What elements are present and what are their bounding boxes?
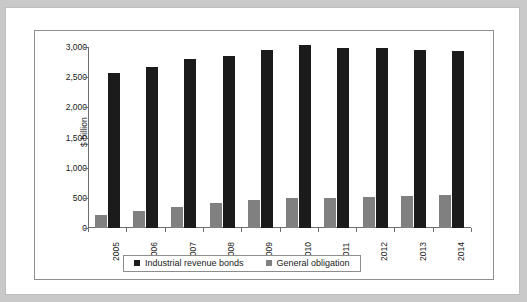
bar-group bbox=[280, 47, 318, 228]
y-axis-tick-mark bbox=[84, 77, 89, 78]
legend-item-label: General obligation bbox=[277, 258, 350, 268]
y-axis-tick-mark bbox=[84, 47, 89, 48]
x-axis-tick-mark bbox=[241, 228, 242, 232]
chart-container: $ billion 05001,0001,5002,0002,5003,000 … bbox=[34, 30, 494, 280]
bar-group bbox=[394, 47, 432, 228]
bar bbox=[95, 215, 107, 228]
x-axis-tick-mark bbox=[203, 228, 204, 232]
bars-layer bbox=[88, 47, 471, 228]
document-page: $ billion 05001,0001,5002,0002,5003,000 … bbox=[6, 8, 519, 294]
bar bbox=[146, 67, 158, 228]
chart-legend: Industrial revenue bonds General obligat… bbox=[123, 255, 361, 272]
bar bbox=[376, 48, 388, 228]
bar bbox=[401, 196, 413, 228]
bar bbox=[108, 73, 120, 228]
bar bbox=[414, 50, 426, 228]
legend-swatch-icon bbox=[266, 260, 272, 266]
legend-item-label: Industrial revenue bonds bbox=[145, 258, 244, 268]
x-axis-tick-label: 2013 bbox=[418, 242, 428, 261]
bar bbox=[452, 51, 464, 228]
bar-group bbox=[318, 47, 356, 228]
bar-group bbox=[203, 47, 241, 228]
y-axis-tick-mark bbox=[84, 107, 89, 108]
bar bbox=[299, 45, 311, 228]
bar-group bbox=[126, 47, 164, 228]
bar bbox=[223, 56, 235, 228]
x-axis-tick-mark bbox=[88, 228, 89, 232]
x-axis-tick-mark bbox=[318, 228, 319, 232]
y-axis-tick-labels: 05001,0001,5002,0002,5003,000 bbox=[51, 31, 87, 279]
x-axis-tick-label: 2005 bbox=[111, 242, 121, 261]
chart-plot-area: $ billion 05001,0001,5002,0002,5003,000 … bbox=[35, 31, 493, 279]
y-axis-tick-mark bbox=[84, 138, 89, 139]
bar bbox=[210, 203, 222, 228]
x-axis-tick-label: 2014 bbox=[456, 242, 466, 261]
bar bbox=[286, 198, 298, 228]
y-axis-tick-mark bbox=[84, 198, 89, 199]
bar bbox=[248, 200, 260, 228]
bar-group bbox=[88, 47, 126, 228]
x-axis-tick-mark bbox=[280, 228, 281, 232]
x-axis-tick-label: 2012 bbox=[379, 242, 389, 261]
bar-group bbox=[433, 47, 471, 228]
bar bbox=[337, 48, 349, 228]
legend-item-industrial-revenue-bonds: Industrial revenue bonds bbox=[134, 258, 244, 268]
x-axis-tick-mark bbox=[433, 228, 434, 232]
bar bbox=[171, 207, 183, 228]
bar-group bbox=[356, 47, 394, 228]
legend-item-general-obligation: General obligation bbox=[266, 258, 350, 268]
bar bbox=[261, 50, 273, 228]
bar bbox=[439, 195, 451, 228]
bar bbox=[324, 198, 336, 228]
bar bbox=[184, 59, 196, 228]
bar-group bbox=[165, 47, 203, 228]
bar bbox=[363, 197, 375, 228]
x-axis-tick-mark bbox=[394, 228, 395, 232]
y-axis-tick-mark bbox=[84, 168, 89, 169]
x-axis-tick-mark bbox=[126, 228, 127, 232]
x-axis-tick-mark bbox=[356, 228, 357, 232]
legend-swatch-icon bbox=[134, 260, 140, 266]
page-background: $ billion 05001,0001,5002,0002,5003,000 … bbox=[0, 0, 527, 302]
x-axis-tick-mark bbox=[471, 228, 472, 232]
bar bbox=[133, 211, 145, 228]
bar-group bbox=[241, 47, 279, 228]
x-axis-tick-mark bbox=[165, 228, 166, 232]
